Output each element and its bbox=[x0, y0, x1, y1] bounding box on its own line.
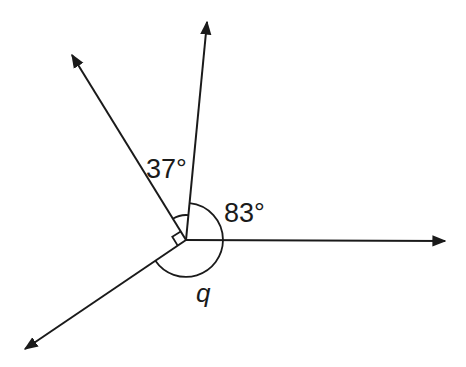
label-37: 37° bbox=[146, 154, 187, 184]
angle-diagram: 37° 83° q bbox=[0, 0, 466, 367]
arc-83 bbox=[190, 203, 224, 240]
ray-right bbox=[186, 240, 445, 241]
ray-upper-left bbox=[72, 55, 186, 240]
label-q: q bbox=[196, 278, 211, 308]
ray-lower-left bbox=[25, 240, 186, 349]
arc-37 bbox=[173, 215, 189, 219]
arc-q bbox=[155, 240, 223, 277]
label-83: 83° bbox=[224, 198, 265, 228]
